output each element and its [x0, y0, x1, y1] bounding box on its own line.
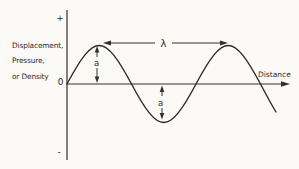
amplitude-peak-top-arrowhead-icon	[95, 46, 100, 53]
y-axis-title-line-1: Displacement,	[12, 41, 63, 50]
amplitude-annotation-trough: a	[158, 86, 164, 120]
wavelength-right-arrowhead-icon	[220, 41, 228, 46]
amplitude-label-peak: a	[94, 58, 99, 68]
origin-label: 0	[58, 77, 64, 87]
y-axis-positive-label: +	[56, 13, 64, 23]
amplitude-peak-bottom-arrowhead-icon	[95, 77, 100, 84]
amplitude-label-trough: a	[158, 98, 163, 108]
wavelength-label: λ	[161, 38, 167, 49]
amplitude-trough-bottom-arrowhead-icon	[160, 113, 165, 120]
axes	[67, 10, 290, 160]
x-axis-label: Distance	[258, 70, 291, 79]
amplitude-annotation-peak: a	[94, 46, 99, 83]
y-axis-title-line-3: or Density	[12, 72, 49, 81]
amplitude-trough-top-arrowhead-icon	[160, 86, 165, 93]
wave-diagram: λ a a + 0 - Displacement, Pressure, or D…	[0, 0, 299, 169]
wavelength-left-arrowhead-icon	[103, 41, 111, 46]
y-axis-negative-label: -	[57, 147, 60, 157]
diagram-canvas: λ a a + 0 - Displacement, Pressure, or D…	[0, 0, 299, 169]
wavelength-annotation: λ	[103, 38, 228, 49]
y-axis-title-line-2: Pressure,	[12, 56, 45, 65]
x-axis-arrowhead-icon	[281, 81, 290, 87]
